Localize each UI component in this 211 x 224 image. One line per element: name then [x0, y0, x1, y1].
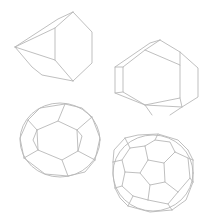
- polyhedra-diagram: [0, 0, 211, 224]
- truncated-icosidodecahedron-like-edge: [37, 121, 78, 160]
- truncated-octahedron-edge: [115, 40, 198, 107]
- truncated-tetrahedron-edge: [15, 12, 73, 47]
- truncated-icosahedron-soccer-ball-edge: [145, 140, 175, 152]
- truncated-octahedron-edge: [170, 107, 182, 115]
- truncated-icosidodecahedron-like-edge: [20, 120, 28, 158]
- truncated-icosahedron-soccer-ball-edge: [140, 160, 165, 185]
- truncated-octahedron-drawing: [115, 40, 198, 115]
- truncated-icosahedron-soccer-ball-edge: [148, 192, 178, 204]
- truncated-icosahedron-soccer-ball-edge: [165, 182, 178, 192]
- truncated-icosidodecahedron-like-edge: [65, 104, 92, 117]
- truncated-octahedron-edge: [145, 50, 180, 105]
- truncated-icosahedron-soccer-ball-edge: [113, 160, 122, 162]
- truncated-icosahedron-soccer-ball-edge: [125, 172, 140, 173]
- truncated-icosahedron-soccer-ball-edge: [122, 146, 145, 172]
- truncated-icosidodecahedron-like-edge: [24, 150, 38, 158]
- truncated-icosidodecahedron-like-edge: [68, 160, 95, 176]
- truncated-tetrahedron-edge: [15, 47, 73, 81]
- truncated-icosidodecahedron-like-edge: [78, 151, 95, 160]
- truncated-octahedron-edge: [123, 40, 160, 105]
- truncated-icosidodecahedron-like-edge: [58, 104, 65, 121]
- truncated-icosidodecahedron-like-edge: [28, 120, 37, 130]
- truncated-icosidodecahedron-like-outline: [20, 103, 100, 177]
- truncated-tetrahedron-edge: [73, 12, 92, 81]
- truncated-icosahedron-soccer-ball-edge: [122, 172, 148, 200]
- truncated-octahedron-edge: [180, 98, 182, 107]
- truncated-icosahedron-soccer-ball-edge: [125, 138, 130, 148]
- truncated-octahedron-edge: [115, 92, 123, 93]
- truncated-icosidodecahedron-like-edge: [62, 160, 68, 176]
- truncated-icosahedron-soccer-ball-edge: [164, 152, 175, 163]
- truncated-tetrahedron-edge: [15, 47, 73, 81]
- truncated-octahedron-edge: [145, 105, 152, 115]
- truncated-icosahedron-soccer-ball-edge: [148, 185, 150, 200]
- truncated-icosidodecahedron-like-edge: [77, 117, 92, 130]
- rounded-polyhedron-drawing: [20, 103, 100, 177]
- truncated-icosidodecahedron-like-edge: [24, 158, 68, 176]
- truncated-icosahedron-soccer-ball-edge: [145, 146, 148, 160]
- truncated-tetrahedron-drawing: [15, 12, 92, 81]
- soccer-ball-polyhedron-drawing: [113, 134, 193, 212]
